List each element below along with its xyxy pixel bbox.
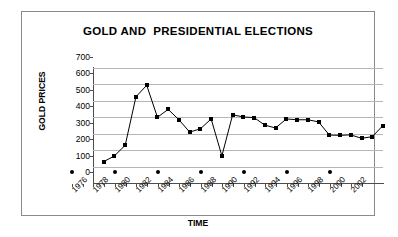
data-point-marker — [252, 116, 256, 120]
data-point-marker — [188, 130, 192, 134]
data-point-marker — [370, 135, 374, 139]
y-axis-tick-label: 600 — [76, 69, 90, 77]
data-point-marker — [284, 117, 288, 121]
election-year-marker — [156, 170, 160, 174]
y-axis-tick-label: 200 — [76, 135, 90, 143]
y-axis-tick-label: 700 — [76, 53, 90, 61]
data-point-marker — [123, 143, 127, 147]
election-year-marker — [113, 170, 117, 174]
y-axis-tick-mark — [90, 156, 93, 157]
plot-area — [93, 68, 383, 183]
y-axis-tick-label: 500 — [76, 86, 90, 94]
data-point-marker — [166, 107, 170, 111]
y-axis-tick-label: 300 — [76, 119, 90, 127]
data-point-marker — [220, 154, 224, 158]
data-point-marker — [198, 127, 202, 131]
y-axis-tick-mark — [90, 57, 93, 58]
y-axis-tick-labels: 0100200300400500600700 — [58, 12, 90, 237]
election-year-marker — [199, 170, 203, 174]
y-axis-tick-mark — [90, 106, 93, 107]
data-point-marker — [381, 124, 385, 128]
data-point-marker — [327, 133, 331, 137]
data-point-marker — [349, 133, 353, 137]
series-line-gold-prices — [93, 68, 383, 183]
data-point-marker — [102, 160, 106, 164]
election-year-marker — [328, 170, 332, 174]
data-point-marker — [155, 115, 159, 119]
data-point-marker — [177, 118, 181, 122]
data-point-marker — [274, 126, 278, 130]
data-point-marker — [134, 95, 138, 99]
data-point-marker — [241, 115, 245, 119]
y-axis-tick-mark — [90, 172, 93, 173]
data-point-marker — [295, 118, 299, 122]
y-axis-tick-mark — [90, 123, 93, 124]
y-axis-tick-label: 100 — [76, 152, 90, 160]
data-point-marker — [209, 117, 213, 121]
y-axis-tick-label: 400 — [76, 102, 90, 110]
election-year-marker — [285, 170, 289, 174]
election-year-marker — [242, 170, 246, 174]
chart-screenshot: GOLD AND PRESIDENTIAL ELECTIONS GOLD PRI… — [0, 0, 398, 237]
data-point-marker — [306, 118, 310, 122]
data-point-marker — [231, 113, 235, 117]
y-axis-tick-mark — [90, 73, 93, 74]
data-point-marker — [317, 120, 321, 124]
x-axis-title: TIME — [22, 218, 374, 228]
data-point-marker — [360, 136, 364, 140]
y-axis-tick-mark — [90, 90, 93, 91]
data-point-marker — [145, 83, 149, 87]
data-point-marker — [263, 123, 267, 127]
election-year-marker — [70, 170, 74, 174]
y-axis-tick-mark — [90, 139, 93, 140]
y-axis-title: GOLD PRICES — [37, 53, 47, 149]
data-point-marker — [338, 133, 342, 137]
data-point-marker — [112, 154, 116, 158]
chart-frame: GOLD AND PRESIDENTIAL ELECTIONS GOLD PRI… — [21, 11, 375, 216]
